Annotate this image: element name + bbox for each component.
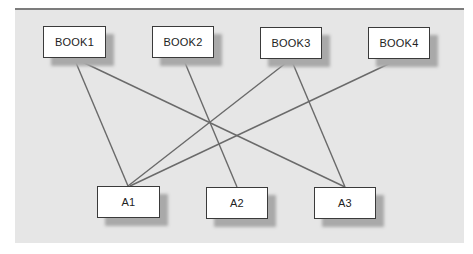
node-a1: A1 — [97, 186, 160, 218]
node-label: BOOK4 — [380, 37, 419, 49]
edge-book1-a1 — [74, 58, 128, 186]
node-label: A1 — [122, 196, 136, 208]
node-a3: A3 — [314, 187, 376, 219]
node-label: A2 — [230, 197, 244, 209]
node-label: BOOK2 — [164, 36, 203, 48]
node-book3: BOOK3 — [260, 27, 322, 59]
node-a2: A2 — [206, 187, 268, 219]
edge-book4-a1 — [130, 59, 399, 186]
node-book1: BOOK1 — [43, 26, 106, 58]
node-label: A3 — [338, 197, 352, 209]
edge-book3-a3 — [291, 59, 345, 187]
node-label: BOOK3 — [272, 37, 311, 49]
node-book4: BOOK4 — [368, 27, 430, 59]
node-label: BOOK1 — [55, 36, 94, 48]
edge-book3-a1 — [128, 59, 291, 186]
node-book2: BOOK2 — [152, 26, 214, 58]
